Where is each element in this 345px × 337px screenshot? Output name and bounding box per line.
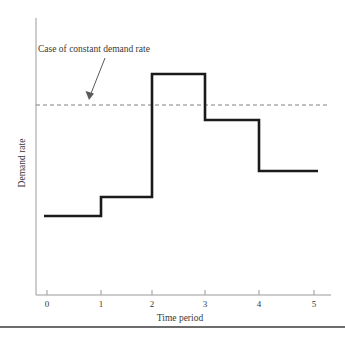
x-tick-label-0: 0: [45, 299, 50, 309]
demand-rate-step-chart: 0 1 2 3 4 5 Time period Demand rate Case…: [0, 0, 345, 337]
figure-container: 0 1 2 3 4 5 Time period Demand rate Case…: [0, 0, 345, 337]
x-tick-label-3: 3: [203, 299, 208, 309]
x-tick-label-4: 4: [257, 299, 262, 309]
y-axis-title: Demand rate: [17, 139, 27, 188]
x-tick-label-2: 2: [150, 299, 155, 309]
x-axis-title: Time period: [157, 313, 204, 323]
annotation-label: Case of constant demand rate: [38, 44, 150, 54]
x-tick-label-1: 1: [99, 299, 104, 309]
x-tick-label-5: 5: [312, 299, 317, 309]
